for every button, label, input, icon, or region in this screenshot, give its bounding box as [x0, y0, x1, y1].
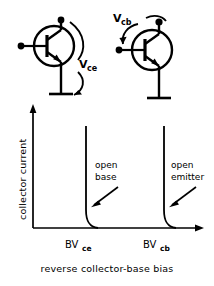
collector-terminal-dot-left [58, 17, 65, 24]
vcb-label-sub: cb [121, 18, 132, 27]
collector-lead-right [145, 34, 159, 44]
vcb-pointer-lower [123, 24, 138, 44]
annotation-open-base-line2: base [95, 172, 117, 182]
annotation-open-emitter-line2: emitter [171, 172, 204, 182]
annotation-open-emitter-line1: open [171, 160, 193, 170]
xtick-bvce-sub: ce [82, 244, 92, 253]
y-axis-arrowhead [30, 104, 37, 113]
vce-label-sub: ce [87, 64, 98, 73]
x-axis-arrowhead [195, 225, 204, 232]
xtick-bvce-main: BV [65, 239, 79, 250]
figure-svg: V ce V [0, 0, 214, 286]
circuit-open-emitter: V cb [113, 12, 172, 98]
xtick-bvcb-sub: cb [160, 244, 170, 253]
emitter-arrow-right [151, 59, 159, 66]
annotation-open-base-line1: open [95, 160, 117, 170]
xtick-bvcb-main: BV [143, 239, 157, 250]
circuit-open-base: V ce [18, 17, 98, 95]
base-terminal-dot-left [18, 43, 25, 50]
y-axis-label: collector current [17, 138, 28, 220]
base-terminal-dot-right [116, 47, 123, 54]
x-axis-label: reverse collector-base bias [41, 263, 174, 274]
vcb-pointer-arrowhead [119, 37, 126, 44]
emitter-arrow-left [53, 55, 61, 62]
breakdown-voltage-figure: V ce V [0, 0, 214, 286]
collector-lead-left [47, 30, 61, 40]
collector-terminal-dot-right [155, 18, 162, 25]
breakdown-chart: collector current reverse collector-base… [17, 104, 204, 274]
